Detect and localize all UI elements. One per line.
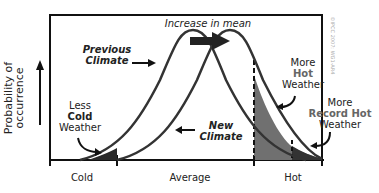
more-hot-annotation: More Hot Weather bbox=[278, 57, 328, 90]
new-climate-label: New Climate bbox=[196, 120, 246, 142]
less-cold-annotation: Less Cold Weather bbox=[55, 100, 105, 133]
chart-title: Increase in mean bbox=[163, 18, 253, 29]
previous-climate-label: Previous Climate bbox=[82, 44, 132, 66]
credit: ©IPCC 2007: WG1-AR4 bbox=[327, 0, 338, 96]
x-tick-average: Average bbox=[160, 172, 220, 183]
more-record-hot-annotation: More Record Hot Weather bbox=[300, 97, 379, 130]
x-tick-hot: Hot bbox=[273, 172, 313, 183]
x-tick-cold: Cold bbox=[62, 172, 102, 183]
y-axis-label: Probability of occurrence bbox=[3, 38, 25, 158]
y-arrow-icon bbox=[36, 60, 44, 70]
